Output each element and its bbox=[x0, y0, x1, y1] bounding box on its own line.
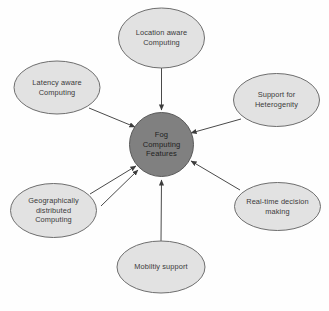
edge-lower-left-secondary bbox=[101, 170, 138, 206]
diagram-graphics bbox=[0, 0, 329, 311]
edge-geographically-distributed-computing-to-center bbox=[90, 166, 136, 194]
edge-mobiltiy-support-to-center bbox=[161, 180, 162, 241]
diagram-canvas: Fog Computing Features Location aware Co… bbox=[0, 0, 329, 311]
feature-node-real-time-decision-making[interactable] bbox=[235, 183, 321, 231]
feature-node-location-aware-computing[interactable] bbox=[119, 8, 205, 68]
center-node-fog-computing-features[interactable] bbox=[130, 113, 194, 177]
feature-node-latency-aware-computing[interactable] bbox=[14, 61, 100, 114]
feature-node-geographically-distributed-computing[interactable] bbox=[11, 184, 97, 238]
edge-real-time-decision-making-to-center bbox=[191, 161, 240, 190]
feature-node-support-for-heterogenity[interactable] bbox=[234, 74, 320, 127]
feature-node-mobiltiy-support[interactable] bbox=[117, 241, 205, 293]
edge-support-for-heterogenity-to-center bbox=[191, 119, 241, 133]
edge-latency-aware-computing-to-center bbox=[89, 108, 135, 127]
